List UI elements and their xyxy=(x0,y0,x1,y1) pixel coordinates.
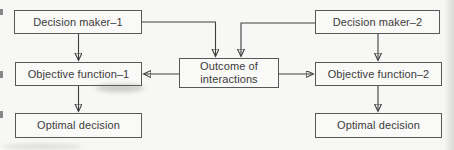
scan-artifact-smudge xyxy=(2,144,82,149)
node-label: Decision maker–2 xyxy=(333,16,423,29)
node-label: Optimal decision xyxy=(37,119,120,132)
node-optimal-decision-1: Optimal decision xyxy=(15,113,142,138)
node-decision-maker-1: Decision maker–1 xyxy=(14,10,142,34)
node-outcome-of-interactions: Outcome of interactions xyxy=(179,58,279,88)
scan-artifact-page-shading xyxy=(444,0,454,150)
node-optimal-decision-2: Optimal decision xyxy=(315,113,442,138)
node-decision-maker-2: Decision maker–2 xyxy=(315,10,440,34)
scan-artifact-left-tick xyxy=(0,71,3,78)
node-objective-function-1: Objective function–1 xyxy=(15,62,142,86)
node-label-line-1: Outcome of xyxy=(200,60,258,73)
node-label: Optimal decision xyxy=(337,119,420,132)
node-label-line-2: interactions xyxy=(200,73,257,86)
node-objective-function-2: Objective function–2 xyxy=(315,62,442,86)
edge-dm2-to-outcome xyxy=(241,23,315,56)
flowchart-figure: Decision maker–1 Decision maker–2 Object… xyxy=(0,0,454,150)
edge-dm1-to-outcome xyxy=(141,22,216,56)
node-label: Decision maker–1 xyxy=(33,16,123,29)
node-label: Objective function–2 xyxy=(328,68,430,81)
scan-artifact-left-tick xyxy=(0,9,3,15)
scan-artifact-smudge xyxy=(96,84,144,92)
scan-artifact-left-tick xyxy=(0,111,3,118)
node-label: Objective function–1 xyxy=(28,68,130,81)
